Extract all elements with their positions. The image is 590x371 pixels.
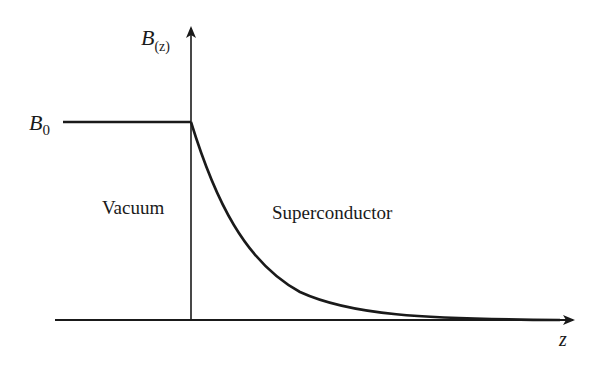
superconductor-label: Superconductor (272, 202, 393, 223)
vacuum-label: Vacuum (102, 197, 164, 218)
x-axis-label: z (558, 328, 567, 350)
y-axis-label: B(z) (141, 25, 170, 55)
b0-label: B0 (29, 110, 50, 138)
field-penetration-diagram: B(z) B0 Vacuum Superconductor z (0, 0, 590, 371)
